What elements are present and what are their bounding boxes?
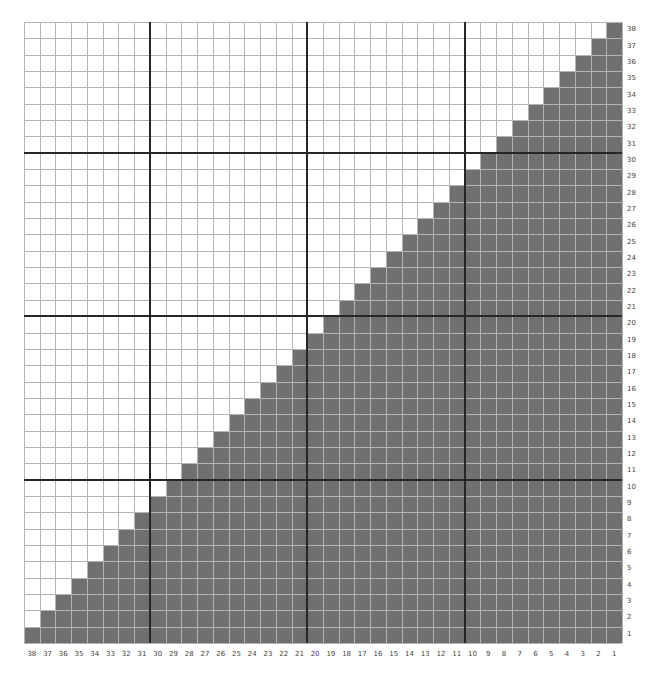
grid-cell-filled [449,578,465,595]
grid-cell-empty [402,104,418,121]
grid-cell-filled [449,431,465,448]
grid-cell-empty [40,120,56,137]
grid-cell-empty [323,218,339,235]
grid-cell-empty [370,218,386,235]
grid-cell-filled [134,529,150,546]
grid-cell-empty [197,234,213,251]
grid-cell-empty [55,398,71,415]
y-axis-tick-label: 12 [627,450,647,458]
grid-cell-filled [591,251,607,268]
grid-cell-filled [480,218,496,235]
grid-cell-filled [449,594,465,611]
grid-cell-filled [606,316,622,333]
grid-cell-filled [543,627,559,644]
grid-cell-filled [354,365,370,382]
grid-cell-filled [606,382,622,399]
grid-cell-filled [512,529,528,546]
grid-cell-empty [417,185,433,202]
grid-cell-empty [134,87,150,104]
grid-cell-empty [118,169,134,186]
grid-cell-filled [417,545,433,562]
grid-cell-filled [323,594,339,611]
x-axis-tick-label: 23 [260,650,276,658]
grid-cell-empty [118,87,134,104]
grid-cell-filled [591,283,607,300]
grid-cell-filled [307,382,323,399]
grid-cell-filled [512,382,528,399]
grid-cell-empty [543,55,559,72]
grid-cell-empty [229,169,245,186]
x-axis-tick-label: 11 [449,650,465,658]
y-axis-tick-label: 34 [627,91,647,99]
grid-cell-empty [260,365,276,382]
grid-cell-filled [575,382,591,399]
grid-cell-empty [480,38,496,55]
grid-cell-filled [417,414,433,431]
grid-cell-empty [166,71,182,88]
grid-cell-filled [323,316,339,333]
grid-cell-filled [575,561,591,578]
grid-cell-empty [244,316,260,333]
grid-cell-filled [480,578,496,595]
grid-cell-filled [528,185,544,202]
grid-cell-filled [260,561,276,578]
grid-cell-filled [480,512,496,529]
grid-cell-empty [55,414,71,431]
grid-cell-empty [71,104,87,121]
grid-cell-empty [512,38,528,55]
grid-cell-empty [197,22,213,39]
grid-cell-filled [559,283,575,300]
grid-cell-filled [55,627,71,644]
grid-cell-empty [55,561,71,578]
grid-cell-filled [575,234,591,251]
grid-cell-filled [307,414,323,431]
grid-cell-filled [606,610,622,627]
grid-cell-empty [134,316,150,333]
grid-cell-filled [402,398,418,415]
grid-cell-filled [480,185,496,202]
staircase-grid-chart [24,22,622,643]
grid-cell-filled [402,365,418,382]
grid-cell-filled [465,234,481,251]
grid-cell-empty [134,104,150,121]
grid-cell-empty [276,169,292,186]
grid-cell-filled [559,169,575,186]
grid-cell-filled [528,480,544,497]
grid-line-horizontal [24,414,622,415]
grid-cell-empty [354,55,370,72]
grid-cell-empty [480,22,496,39]
grid-cell-empty [465,104,481,121]
grid-cell-empty [181,333,197,350]
grid-cell-filled [181,529,197,546]
grid-cell-empty [417,120,433,137]
major-grid-line-vertical [149,22,151,643]
x-axis-tick-label: 9 [480,650,496,658]
grid-cell-empty [339,55,355,72]
grid-cell-empty [87,283,103,300]
grid-cell-filled [103,561,119,578]
grid-cell-filled [496,529,512,546]
grid-cell-filled [307,512,323,529]
grid-cell-empty [465,38,481,55]
x-axis-tick-label: 32 [118,650,134,658]
grid-cell-filled [417,267,433,284]
grid-cell-filled [543,447,559,464]
grid-cell-filled [103,545,119,562]
y-axis-tick-label: 5 [627,564,647,572]
grid-cell-empty [87,529,103,546]
grid-cell-empty [449,55,465,72]
grid-cell-filled [512,349,528,366]
grid-cell-filled [559,185,575,202]
grid-cell-filled [323,578,339,595]
grid-cell-empty [166,398,182,415]
grid-cell-filled [260,382,276,399]
grid-cell-filled [512,234,528,251]
grid-cell-filled [559,349,575,366]
grid-cell-filled [606,496,622,513]
grid-cell-filled [166,496,182,513]
grid-cell-empty [103,382,119,399]
grid-cell-empty [229,398,245,415]
grid-cell-empty [417,202,433,219]
grid-cell-filled [150,545,166,562]
grid-cell-filled [244,545,260,562]
